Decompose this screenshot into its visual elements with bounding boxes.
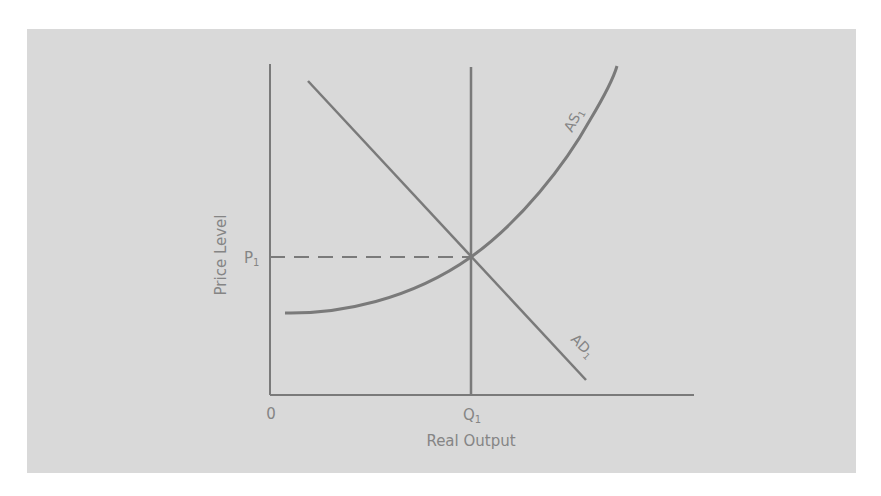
x-axis-label: Real Output — [426, 432, 515, 450]
origin-label: 0 — [266, 405, 276, 423]
ad1-label: AD1 — [566, 331, 597, 362]
p1-tick-label: P1 — [244, 249, 259, 268]
ad1-curve — [308, 81, 586, 380]
q1-tick-label: Q1 — [463, 406, 481, 425]
as1-curve — [285, 66, 617, 313]
as-ad-diagram: Price Level P1 0 Q1 Real Output AS1 AD1 — [0, 0, 881, 496]
y-axis-label: Price Level — [212, 215, 230, 296]
